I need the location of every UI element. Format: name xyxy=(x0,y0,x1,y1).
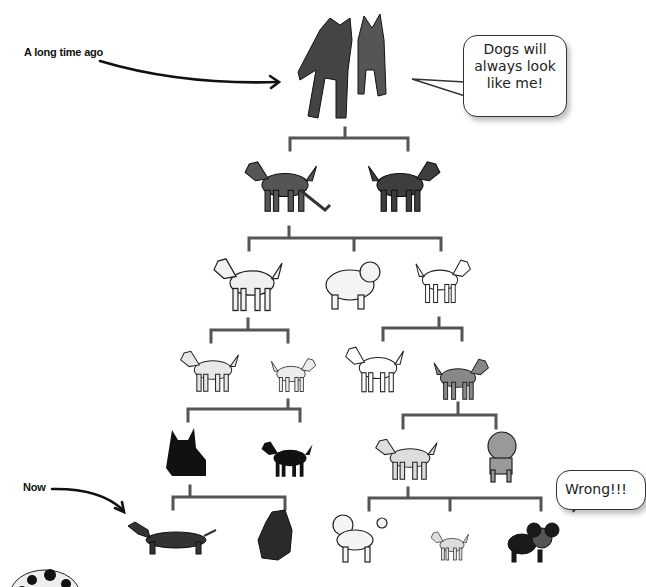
dachshund-icon xyxy=(128,522,216,554)
collie-icon xyxy=(245,162,330,211)
dalmatian-2-icon xyxy=(346,347,404,392)
wolf-pair-icon xyxy=(298,14,386,118)
afghan-hound-icon xyxy=(214,259,282,311)
poodle-icon xyxy=(333,515,387,562)
pointer-icon xyxy=(181,351,239,391)
spaniel-icon xyxy=(376,439,437,479)
schipperke-icon xyxy=(369,162,440,211)
cavalier-king-charles-spaniel-icon xyxy=(258,510,292,560)
airedale-terrier-icon xyxy=(434,359,488,399)
griffon-icon xyxy=(488,432,516,482)
whippet-icon xyxy=(272,359,316,392)
black-bulldog-icon xyxy=(166,428,206,476)
papillon-icon xyxy=(508,523,559,562)
yorkshire-terrier-icon xyxy=(431,532,468,560)
dalmatian-icon xyxy=(416,260,470,302)
scottish-terrier-icon xyxy=(262,442,313,477)
sheepdog-icon xyxy=(326,262,380,309)
dalmatian-head-corner-icon xyxy=(10,569,80,587)
